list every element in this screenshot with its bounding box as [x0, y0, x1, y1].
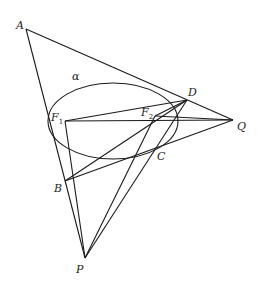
label-Q: Q: [237, 121, 246, 132]
line-AQ: [26, 29, 233, 120]
line-PD: [85, 100, 187, 258]
line-F2Q: [155, 116, 233, 120]
label-B: B: [54, 183, 62, 194]
label-C: C: [157, 151, 165, 162]
label-P: P: [76, 264, 83, 275]
line-AP: [26, 29, 85, 258]
label-D: D: [188, 87, 197, 98]
geometry-figure: [0, 0, 258, 284]
line-F1P: [65, 121, 85, 258]
label-alpha: α: [72, 71, 79, 82]
line-PF2: [85, 116, 155, 258]
line-F1D: [65, 100, 187, 121]
label-F2: F2: [141, 107, 153, 121]
diagram-canvas: A α D Q F1 F2 B C P: [0, 0, 258, 284]
label-A: A: [16, 20, 24, 31]
label-F1: F1: [51, 112, 63, 126]
